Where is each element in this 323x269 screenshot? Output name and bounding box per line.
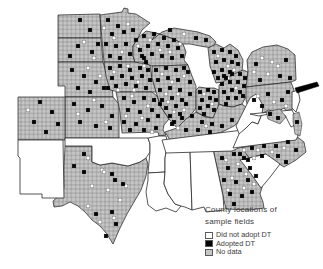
adopted-swatch <box>205 240 213 247</box>
state-north-dakota <box>58 14 101 38</box>
legend-title-line1: County locations of <box>205 204 322 216</box>
no-data-swatch <box>205 249 213 256</box>
sample-fields-figure: County locations of sample fields Did no… <box>0 0 323 269</box>
did-not-adopt-swatch <box>205 232 213 239</box>
long-island-shape <box>295 82 319 93</box>
no-data-label: No data <box>216 248 242 256</box>
legend: County locations of sample fields Did no… <box>205 204 322 257</box>
state-new-jersey <box>292 90 300 112</box>
legend-title-line2: sample fields <box>205 216 322 228</box>
state-new-mexico <box>18 140 64 198</box>
state-south-dakota <box>58 38 103 62</box>
legend-item-no-data: No data <box>205 248 322 257</box>
legend-items: Did not adopt DT Adopted DT No data <box>205 231 322 257</box>
state-new-york <box>246 45 296 87</box>
